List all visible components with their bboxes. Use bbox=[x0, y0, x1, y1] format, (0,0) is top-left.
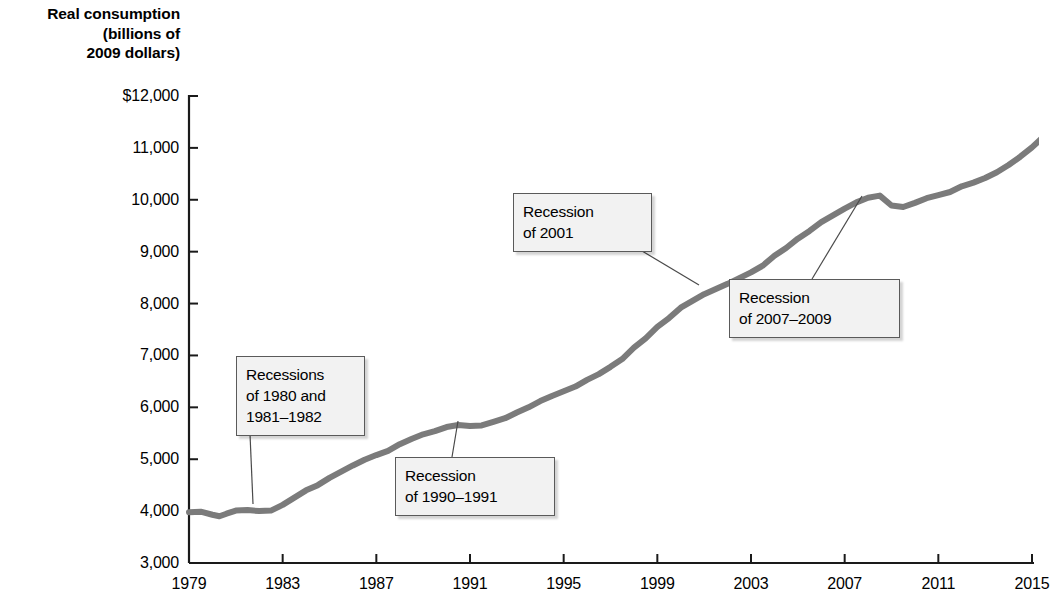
axis-lines bbox=[189, 95, 1034, 563]
annotation-recession-2001: Recession of 2001 bbox=[513, 193, 652, 252]
annotation-recession-1990-1991: Recession of 1990–1991 bbox=[395, 457, 555, 516]
annotation-recession-2007-2009: Recession of 2007–2009 bbox=[729, 279, 900, 338]
annotation-recessions-1980-1982: Recessions of 1980 and 1981–1982 bbox=[236, 356, 365, 436]
tick-marks bbox=[189, 96, 1032, 563]
